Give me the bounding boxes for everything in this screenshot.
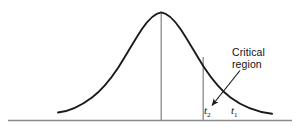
critical-region-annotation: Critical region (232, 47, 265, 70)
axis-tick-label-t2: t2 (204, 104, 211, 119)
axis-tick-subscript-t1: 1 (234, 111, 238, 119)
critical-region-annotation-line1: Critical (232, 47, 265, 59)
figure-container: Critical region t2 t1 (0, 0, 300, 133)
axis-tick-label-t1: t1 (231, 104, 238, 119)
critical-region-annotation-line2: region (232, 59, 265, 71)
axis-tick-subscript-t2: 2 (207, 111, 211, 119)
